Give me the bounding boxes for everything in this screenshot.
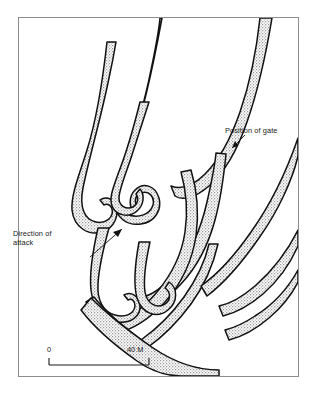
attack-annotation-label: Direction ofattack	[13, 229, 52, 247]
rampart-nw-inner-hook	[72, 42, 117, 233]
attack-label-line-1: Direction of	[13, 229, 52, 238]
attack-label-line-2: attack	[13, 238, 33, 247]
figure-root: 0 40 M Position of gate Direction ofatta…	[0, 0, 317, 393]
scale-bar-rule	[47, 356, 167, 372]
rampart-shapes	[72, 18, 298, 376]
fortification-plan-drawing	[19, 18, 298, 376]
gate-annotation-label: Position of gate	[225, 126, 278, 135]
scale-bar: 0 40 M	[47, 345, 167, 373]
map-frame: 0 40 M	[18, 17, 299, 377]
scale-bar-min-label: 0	[47, 345, 51, 354]
scale-bar-max-label: 40 M	[127, 345, 143, 354]
